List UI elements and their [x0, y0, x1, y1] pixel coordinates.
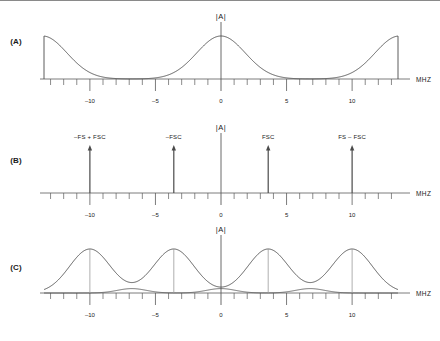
impulse-arrowhead — [266, 145, 270, 151]
figure-canvas: –10–50510|A|MHZ(A)–FS + FSC–FSCFSCFS – F… — [0, 0, 440, 341]
unit-label-a: MHZ — [416, 76, 431, 83]
tick-label: –10 — [85, 212, 96, 218]
panel-label-a: (A) — [10, 37, 22, 46]
tick-label: 0 — [219, 98, 223, 104]
frequency-spectrum-figure: –10–50510|A|MHZ(A)–FS + FSC–FSCFSCFS – F… — [0, 0, 440, 341]
tick-label: 5 — [285, 312, 289, 318]
tick-label: –10 — [85, 98, 96, 104]
panel-c: –10–50510|A|MHZ(C) — [10, 225, 431, 318]
top-divider-rule — [0, 0, 440, 1]
tick-label: –5 — [152, 312, 159, 318]
tick-label: 0 — [219, 312, 223, 318]
panel-label-c: (C) — [10, 263, 22, 272]
panel-a: –10–50510|A|MHZ(A) — [10, 12, 431, 104]
impulse-label: –FS + FSC — [74, 134, 106, 140]
impulse-arrowhead — [350, 145, 354, 151]
panel-label-b: (B) — [10, 156, 22, 165]
axis-title-c: |A| — [216, 225, 227, 234]
tick-label: 5 — [285, 98, 289, 104]
tick-label: 10 — [349, 212, 356, 218]
axis-title-b: |A| — [216, 123, 227, 132]
tick-label: 10 — [349, 312, 356, 318]
unit-label-b: MHZ — [416, 190, 431, 197]
impulse-label: FSC — [262, 134, 275, 140]
impulse-arrowhead — [172, 145, 176, 151]
tick-label: 5 — [285, 212, 289, 218]
impulse-arrowhead — [88, 145, 92, 151]
impulse-label: FS – FSC — [338, 134, 366, 140]
tick-label: –5 — [152, 98, 159, 104]
tick-label: –5 — [152, 212, 159, 218]
impulse-label: –FSC — [166, 134, 183, 140]
axis-title-a: |A| — [216, 12, 227, 21]
tick-label: 10 — [349, 98, 356, 104]
unit-label-c: MHZ — [416, 290, 431, 297]
tick-label: 0 — [219, 212, 223, 218]
tick-label: –10 — [85, 312, 96, 318]
panel-b: –FS + FSC–FSCFSCFS – FSC–10–50510|A|MHZ(… — [10, 123, 431, 218]
